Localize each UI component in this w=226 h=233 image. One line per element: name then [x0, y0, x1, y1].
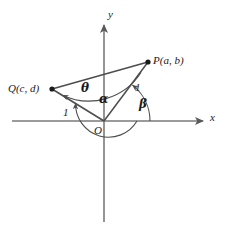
- y-axis-label: y: [108, 9, 113, 20]
- point-p-dot: [145, 59, 150, 64]
- angle-label-theta: θ: [81, 82, 89, 94]
- angle-label-alpha: α: [99, 93, 108, 105]
- x-axis-label: x: [210, 112, 215, 123]
- point-label-p: P(a, b): [153, 55, 184, 66]
- segment-pq: [52, 62, 148, 89]
- length-label-oq: 1: [63, 107, 69, 118]
- point-q-dot: [49, 86, 54, 91]
- length-label-op: 1: [135, 82, 141, 93]
- diagram-canvas: [0, 0, 226, 233]
- segment-op: [104, 62, 148, 121]
- geometry-figure: x y O P(a, b) Q(c, d) 1 1 θ α β: [0, 0, 226, 233]
- point-label-q: Q(c, d): [8, 83, 39, 94]
- angle-label-beta: β: [139, 98, 147, 110]
- origin-label: O: [94, 125, 102, 136]
